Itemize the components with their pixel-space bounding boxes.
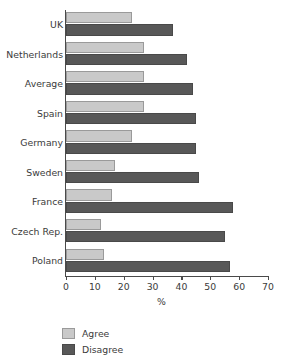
chart-legend: AgreeDisagree (62, 325, 123, 357)
x-tick-mark (181, 276, 182, 280)
bar-row (66, 217, 268, 247)
x-tick-mark (239, 276, 240, 280)
bar-row (66, 69, 268, 99)
x-tick-label: 10 (80, 281, 110, 292)
bar-row (66, 40, 268, 70)
category-label: Czech Rep. (0, 217, 63, 247)
x-tick-mark (124, 276, 125, 280)
bar-row (66, 10, 268, 40)
bar-agree (66, 189, 112, 200)
x-tick-mark (268, 276, 269, 280)
bar-disagree (66, 143, 196, 154)
category-axis-labels: UKNetherlandsAverageSpainGermanySwedenFr… (0, 10, 63, 276)
bar-disagree (66, 172, 199, 183)
bar-agree (66, 12, 132, 23)
x-tick-mark (66, 276, 67, 280)
x-tick-mark (153, 276, 154, 280)
bar-disagree (66, 83, 193, 94)
bar-agree (66, 42, 144, 53)
x-tick-label: 30 (138, 281, 168, 292)
bar-disagree (66, 261, 230, 272)
bar-agree (66, 249, 104, 260)
x-tick-label: 60 (224, 281, 254, 292)
category-label: UK (0, 10, 63, 40)
bar-disagree (66, 24, 173, 35)
category-label: Germany (0, 128, 63, 158)
x-tick-label: 40 (166, 281, 196, 292)
x-tick-mark (95, 276, 96, 280)
bar-row (66, 158, 268, 188)
category-label: Average (0, 69, 63, 99)
bar-row (66, 187, 268, 217)
bar-agree (66, 219, 101, 230)
bar-row (66, 128, 268, 158)
x-tick-mark (210, 276, 211, 280)
bar-row (66, 99, 268, 129)
x-axis-ticks: 010203040506070 (0, 276, 283, 298)
legend-swatch-icon (62, 344, 75, 355)
category-label: Netherlands (0, 40, 63, 70)
legend-item: Agree (62, 325, 123, 341)
plot-area (66, 10, 268, 276)
x-tick-label: 70 (253, 281, 283, 292)
x-tick-label: 20 (109, 281, 139, 292)
legend-label: Disagree (82, 344, 123, 355)
x-tick-label: 0 (51, 281, 81, 292)
bar-agree (66, 101, 144, 112)
x-tick-label: 50 (195, 281, 225, 292)
bar-disagree (66, 54, 187, 65)
bar-chart: UKNetherlandsAverageSpainGermanySwedenFr… (0, 0, 283, 363)
category-label: Sweden (0, 158, 63, 188)
bar-row (66, 246, 268, 276)
bar-agree (66, 160, 115, 171)
category-label: Spain (0, 99, 63, 129)
legend-swatch-icon (62, 328, 75, 339)
legend-label: Agree (82, 328, 109, 339)
x-axis-title: % (0, 296, 283, 307)
bar-disagree (66, 202, 233, 213)
bar-disagree (66, 113, 196, 124)
bar-rows (66, 10, 268, 276)
bar-agree (66, 71, 144, 82)
category-label: France (0, 187, 63, 217)
legend-item: Disagree (62, 341, 123, 357)
category-label: Poland (0, 246, 63, 276)
bar-agree (66, 130, 132, 141)
bar-disagree (66, 231, 225, 242)
